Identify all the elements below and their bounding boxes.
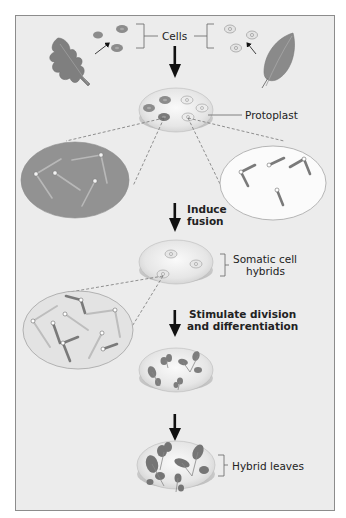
down-arrow-1 [169, 46, 181, 78]
oak-leaf-icon [50, 38, 90, 86]
label-stimulate-1: Stimulate division [189, 308, 296, 320]
label-somatic-1: Somatic cell [233, 253, 297, 265]
cells-bracket-right [194, 24, 214, 48]
magnified-light-cell [220, 146, 326, 220]
petri-dish-protoplasts [139, 88, 213, 132]
label-hybrid-leaves: Hybrid leaves [232, 460, 304, 472]
magnified-dark-cell [21, 142, 129, 218]
smooth-leaf-icon [262, 33, 294, 88]
petri-dish-hybrid-leaves [137, 441, 215, 492]
somatic-bracket [220, 254, 229, 276]
light-cells-group [225, 25, 258, 52]
label-cells: Cells [162, 30, 187, 42]
petri-dish-plantlets [139, 348, 213, 392]
down-arrow-4 [169, 414, 181, 441]
down-arrow-2 [169, 203, 181, 232]
magnified-hybrid-cell [23, 291, 133, 369]
hybrid-leaves-bracket [218, 455, 228, 476]
down-arrow-3 [169, 310, 181, 337]
label-induce-2: fusion [187, 215, 224, 227]
arrow-to-light-cell [248, 44, 256, 54]
label-protoplast: Protoplast [245, 109, 298, 121]
arrow-to-dark-cell [95, 44, 108, 54]
label-somatic-2: hybrids [246, 265, 285, 277]
petri-dish-hybrids [139, 240, 213, 284]
dark-cells-group [93, 25, 128, 52]
cells-bracket-left [136, 24, 158, 48]
label-induce-1: Induce [187, 203, 227, 215]
label-stimulate-2: and differentiation [187, 320, 298, 332]
